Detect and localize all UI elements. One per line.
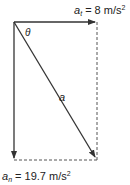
resultant-label: a (59, 91, 65, 103)
angle-label: θ (25, 27, 31, 38)
top-label: at = 8 m/s2 (74, 4, 126, 17)
resultant-arrow (14, 22, 95, 157)
acceleration-vector-diagram: at = 8 m/s2 θ a an = 19.7 m/s2 (0, 0, 130, 185)
bottom-label: an = 19.7 m/s2 (2, 170, 71, 183)
